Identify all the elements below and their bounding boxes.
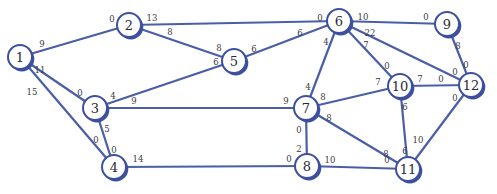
edge-capacity-label-1-4-from: 15 [27,87,38,97]
edge-capacity-label-9-12-from: 8 [455,41,460,51]
edge-capacity-label-12-11-to: 10 [413,135,424,145]
edge-capacity-label-7-8-to: 2 [296,144,301,154]
edge-capacity-label-1-3-from: 11 [35,65,46,75]
edge-12-11 [408,85,471,169]
edge-capacity-label-12-11-from: 0 [452,93,457,103]
node-label: 6 [335,14,343,29]
edge-capacity-label-2-5-from: 8 [167,27,172,37]
edge-capacity-label-1-4-to: 0 [93,135,98,145]
edge-capacity-label-7-10-to: 7 [375,77,380,87]
node-label: 7 [302,101,310,116]
node-11: 11 [396,157,422,184]
node-label: 8 [303,159,311,174]
node-label: 1 [16,50,24,65]
edge-capacity-label-10-12-to: 0 [438,74,443,84]
edge-capacity-label-4-8-from: 14 [133,154,144,164]
edge-capacity-label-6-10-from: 7 [363,40,368,50]
node-10: 10 [388,74,414,101]
edge-capacity-label-7-11-from: 8 [326,113,331,123]
node-4: 4 [102,155,128,182]
edge-capacity-label-9-12-to: 0 [463,60,468,70]
edge-capacity-label-6-9-from: 10 [358,12,369,22]
edge-capacity-label-5-6-from: 6 [251,44,256,54]
node-label: 10 [392,79,409,94]
edge-capacity-label-8-11-to: 0 [384,155,389,165]
edge-capacity-label-6-7-to: 4 [305,82,310,92]
edge-capacity-label-8-11-from: 10 [325,155,336,165]
edge-capacity-label-6-12-to: 0 [452,67,457,77]
edge-capacity-label-1-2-to: 0 [109,14,114,24]
node-2: 2 [117,13,143,40]
edge-1-2 [20,25,129,57]
node-label: 3 [91,101,99,116]
edge-2-6 [129,21,339,25]
edge-capacity-label-4-8-to: 0 [286,154,291,164]
edge-capacity-label-2-6-from: 13 [147,13,158,23]
edge-capacity-label-10-11-from: 6 [402,102,407,112]
edge-6-9 [339,21,447,24]
edge-capacity-label-2-5-to: 8 [216,43,221,53]
node-label: 4 [110,160,118,175]
edge-capacity-label-3-5-to: 6 [213,57,218,67]
node-label: 11 [400,162,417,177]
edge-capacity-label-7-10-from: 8 [320,92,325,102]
edge-capacity-label-6-10-to: 0 [384,61,389,71]
edge-capacity-label-6-7-from: 4 [323,37,328,47]
node-5: 5 [222,49,248,76]
edge-4-8 [114,166,307,167]
edge-capacity-label-3-7-from: 9 [131,96,136,106]
edge-capacity-label-1-3-to: 0 [77,88,82,98]
node-3: 3 [83,96,109,123]
edge-3-5 [95,61,234,108]
node-6: 6 [327,9,353,36]
edge-capacity-label-5-6-to: 6 [297,28,302,38]
edge-capacity-label-3-4-from: 5 [104,124,109,134]
node-9: 9 [435,12,461,39]
edge-capacity-label-6-9-to: 0 [423,12,428,22]
node-1: 1 [8,45,34,72]
edge-7-11 [306,108,408,169]
node-7: 7 [294,96,320,123]
node-label: 9 [443,17,451,32]
node-label: 5 [230,54,238,69]
node-label: 2 [125,18,133,33]
edge-capacity-label-7-8-from: 0 [296,125,301,135]
node-8: 8 [295,154,321,181]
edge-capacity-label-2-6-to: 0 [317,13,322,23]
node-label: 12 [463,78,480,93]
edge-capacity-label-6-12-from: 22 [365,28,376,38]
edge-capacity-label-3-4-to: 0 [111,145,116,155]
edge-capacity-label-10-11-to: 6 [402,146,407,156]
edge-capacity-label-3-5-from: 4 [110,91,115,101]
edge-capacity-label-1-2-from: 9 [39,39,44,49]
flow-network-diagram: 9011015013088469950661401004470220870288… [0,0,497,194]
edge-capacity-label-10-12-from: 7 [417,74,422,84]
edge-8-11 [307,166,408,169]
edge-capacity-label-3-7-to: 9 [283,96,288,106]
